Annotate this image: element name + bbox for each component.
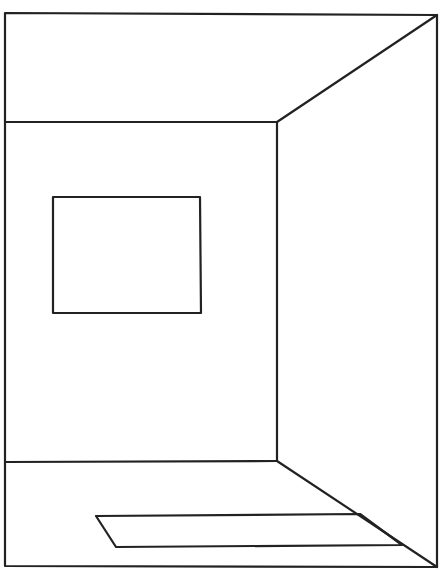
window [53, 197, 201, 313]
room-drawing [0, 0, 443, 570]
ceiling-edge [277, 15, 437, 122]
rug [96, 514, 402, 547]
back-wall [5, 122, 277, 462]
outer-frame [5, 13, 437, 567]
